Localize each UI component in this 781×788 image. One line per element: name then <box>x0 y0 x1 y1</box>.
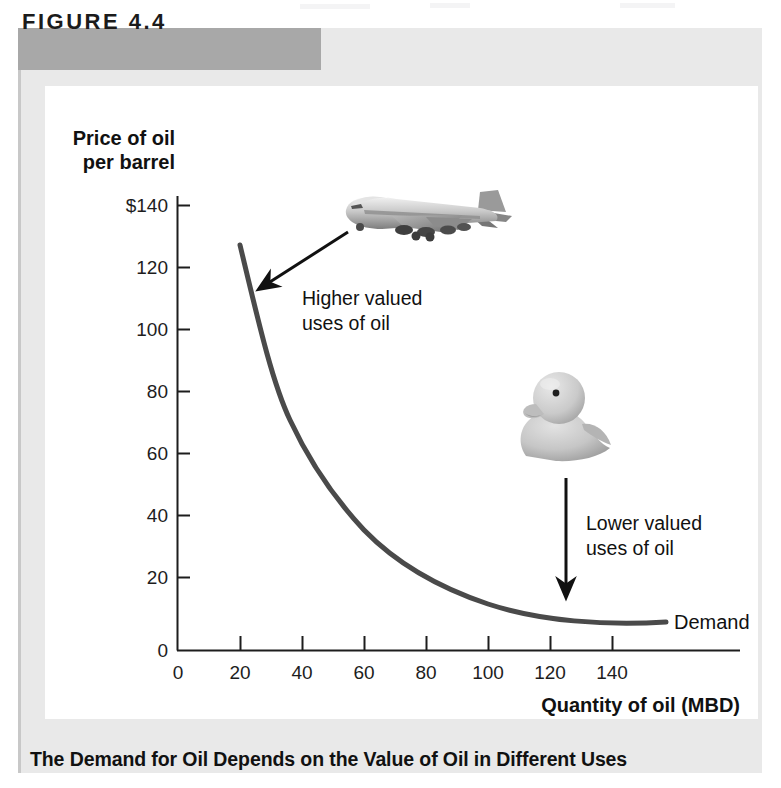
y-tick-label-20: 20 <box>147 567 168 588</box>
y-tick-label-60: 60 <box>147 443 168 464</box>
lower-valued-text-line2: uses of oil <box>586 537 674 559</box>
x-tick-label-140: 140 <box>596 662 628 683</box>
y-axis-title-line1: Price of oil <box>73 127 175 149</box>
demand-series-label: Demand <box>674 611 750 633</box>
x-tick-label-100: 100 <box>472 662 504 683</box>
airplane-image <box>330 186 520 248</box>
higher-valued-text-line1: Higher valued <box>302 287 422 309</box>
x-tick-label-80: 80 <box>415 662 436 683</box>
lower-valued-annotation: Lower valued uses of oil <box>566 478 702 597</box>
figure-caption: The Demand for Oil Depends on the Value … <box>30 748 770 771</box>
y-tick-label-140: $140 <box>126 195 168 216</box>
x-axis-title: Quantity of oil (MBD) <box>541 694 740 716</box>
y-tick-label-80: 80 <box>147 381 168 402</box>
x-tick-label-20: 20 <box>229 662 250 683</box>
higher-valued-text-line2: uses of oil <box>302 312 390 334</box>
y-tick-label-40: 40 <box>147 505 168 526</box>
rubber-duck-image <box>512 348 620 466</box>
y-tick-label-0: 0 <box>157 640 168 661</box>
x-axis-ticks <box>241 636 613 650</box>
y-axis-title-line2: per barrel <box>83 151 175 173</box>
y-tick-label-100: 100 <box>136 319 168 340</box>
y-axis-ticks <box>177 206 190 578</box>
x-tick-label-60: 60 <box>353 662 374 683</box>
demand-curve-chart: $140 120 100 80 60 40 20 0 0 20 40 60 80… <box>0 0 781 788</box>
x-tick-label-0: 0 <box>173 662 184 683</box>
lower-valued-text-line1: Lower valued <box>586 512 702 534</box>
x-tick-label-40: 40 <box>291 662 312 683</box>
x-tick-label-120: 120 <box>534 662 566 683</box>
y-tick-label-120: 120 <box>136 257 168 278</box>
